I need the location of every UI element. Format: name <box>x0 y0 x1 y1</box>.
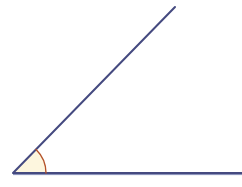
angle-diagram-canvas <box>0 0 242 187</box>
angle-figure-svg <box>0 0 242 187</box>
